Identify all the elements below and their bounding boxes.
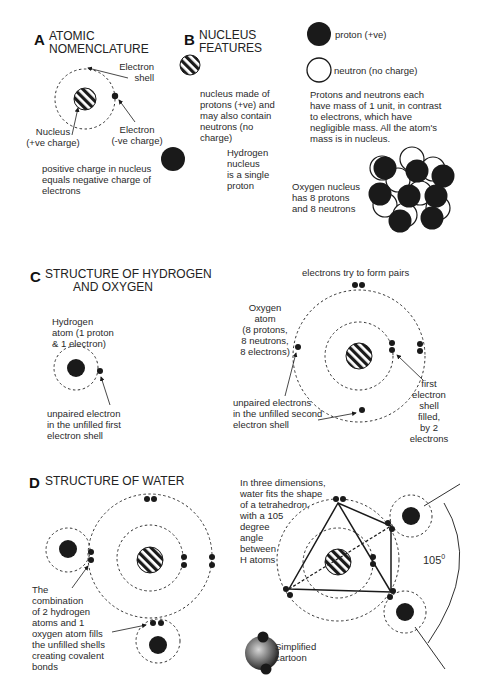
electron-icon xyxy=(97,368,103,374)
hydrogen-atom-description: Hydrogen atom (1 proton & 1 electron) xyxy=(52,316,132,349)
nucleus-icon xyxy=(74,88,96,110)
angle-arc xyxy=(428,503,460,643)
neutron-legend-icon xyxy=(307,58,331,82)
section-b-title: NUCLEUS FEATURES xyxy=(199,29,262,55)
section-letter-b: B xyxy=(184,31,195,48)
hydrogen-unpaired-note: unpaired electron in the unfilled first … xyxy=(47,408,157,441)
hydrogen-proton-icon xyxy=(59,540,77,558)
electron-label: Electron (-ve charge) xyxy=(108,124,166,146)
electron-shell-label: Electron shell xyxy=(106,61,154,83)
nucleus-icon xyxy=(137,547,163,573)
electron-icon xyxy=(112,93,118,99)
oxygen-atom-description: Oxygen atom (8 protons, 8 neutrons, 8 el… xyxy=(235,302,295,357)
cartoon-label: Simplified cartoon xyxy=(275,641,335,663)
proton-icon xyxy=(67,359,85,377)
proton-legend-label: proton (+ve) xyxy=(335,29,387,40)
section-d-title: STRUCTURE OF WATER xyxy=(45,475,184,488)
mass-note: Protons and neutrons each have mass of 1… xyxy=(310,89,483,144)
three-dimensions-note: In three dimensions, water fits the shap… xyxy=(240,477,340,565)
proton-legend-icon xyxy=(307,22,331,46)
nucleus-description: nucleus made of protons (+ve) and may al… xyxy=(200,88,290,143)
nucleus-label: Nucleus (+ve charge) xyxy=(22,126,84,148)
charge-balance-note: positive charge in nucleus equals negati… xyxy=(42,163,172,196)
hydrogen-proton-icon xyxy=(402,507,420,525)
section-letter-a: A xyxy=(34,31,45,48)
hydrogen-proton-icon xyxy=(149,636,167,654)
simplified-cartoon-icon xyxy=(245,632,279,675)
combination-note: The combination of 2 hydrogen atoms and … xyxy=(32,584,142,672)
hydrogen-proton-icon xyxy=(396,603,414,621)
section-a-title: ATOMIC NOMENCLATURE xyxy=(49,30,149,56)
section-letter-c: C xyxy=(30,268,41,285)
oxygen-nucleus-description: Oxygen nucleus has 8 protons and 8 neutr… xyxy=(292,181,372,214)
electron-pairs-note: electrons try to form pairs xyxy=(302,267,409,278)
oxygen-unpaired-note: unpaired electrons in the unfilled secon… xyxy=(233,397,343,430)
nucleus-icon xyxy=(180,55,200,75)
section-letter-d: D xyxy=(29,474,40,491)
section-c-hydrogen-atom xyxy=(54,346,110,405)
neutron-legend-label: neutron (no charge) xyxy=(334,65,417,76)
section-c-title: STRUCTURE OF HYDROGEN AND OXYGEN xyxy=(45,268,212,294)
hydrogen-nucleus-description: Hydrogen nucleus is a single proton xyxy=(227,147,287,191)
first-shell-note: first electron shell filled, by 2 electr… xyxy=(404,378,454,444)
nucleus-icon xyxy=(346,343,372,369)
bond-angle-label: 1050 xyxy=(423,551,445,566)
oxygen-nucleus-cluster-icon xyxy=(369,147,455,233)
